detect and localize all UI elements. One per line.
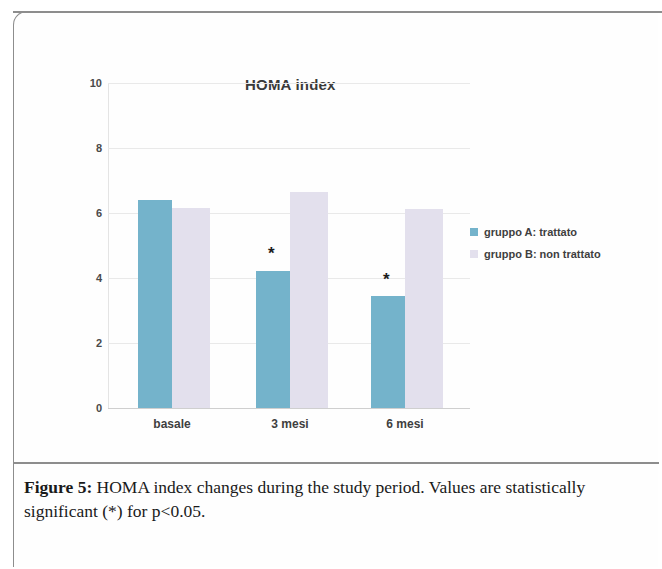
y-tick-label-10: 10 xyxy=(76,77,102,89)
significance-star-3-mesi: * xyxy=(268,245,275,262)
y-tick-label-6: 6 xyxy=(76,207,102,219)
figure-image: HOMA index 10 8 6 4 2 0 * xyxy=(0,0,662,462)
legend-label-gruppo-a: gruppo A: trattato xyxy=(484,226,577,238)
bar-gruppo-b-6-mesi[interactable] xyxy=(405,209,443,408)
legend-swatch-gruppo-a xyxy=(470,228,478,236)
significance-star-6-mesi: * xyxy=(383,271,390,288)
bar-gruppo-a-3-mesi[interactable] xyxy=(256,271,290,408)
homa-index-bar-chart: HOMA index 10 8 6 4 2 0 * xyxy=(0,0,662,462)
chart-legend: gruppo A: trattato gruppo B: non trattat… xyxy=(470,226,656,270)
figure-caption-label: Figure 5: xyxy=(24,477,92,497)
x-axis-baseline xyxy=(108,408,470,409)
legend-item-gruppo-b[interactable]: gruppo B: non trattato xyxy=(470,248,656,260)
bar-gruppo-a-basale[interactable] xyxy=(138,200,172,408)
x-tick-label-6-mesi: 6 mesi xyxy=(345,417,465,431)
bar-group-3-mesi: * xyxy=(256,83,352,408)
y-tick-label-0: 0 xyxy=(76,402,102,414)
bar-group-basale xyxy=(138,83,234,408)
bar-gruppo-b-3-mesi[interactable] xyxy=(290,192,328,408)
figure-caption: Figure 5: HOMA index changes during the … xyxy=(24,476,636,523)
figure-caption-text: HOMA index changes during the study peri… xyxy=(24,477,585,521)
plot-area: * * xyxy=(108,83,470,408)
legend-label-gruppo-b: gruppo B: non trattato xyxy=(484,248,601,260)
legend-swatch-gruppo-b xyxy=(470,250,478,258)
y-tick-label-2: 2 xyxy=(76,337,102,349)
bar-gruppo-b-basale[interactable] xyxy=(172,208,210,408)
x-tick-label-3-mesi: 3 mesi xyxy=(230,417,350,431)
bar-group-6-mesi: * xyxy=(371,83,467,408)
legend-item-gruppo-a[interactable]: gruppo A: trattato xyxy=(470,226,656,238)
bar-gruppo-a-6-mesi[interactable] xyxy=(371,296,405,408)
caption-divider xyxy=(14,462,659,464)
x-tick-label-basale: basale xyxy=(112,417,232,431)
y-tick-label-8: 8 xyxy=(76,142,102,154)
y-tick-label-4: 4 xyxy=(76,272,102,284)
